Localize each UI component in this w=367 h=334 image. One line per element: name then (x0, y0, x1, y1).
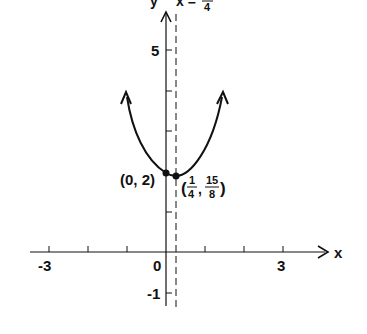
vertex-y-den: 8 (209, 188, 215, 200)
parabola-curve (127, 97, 222, 176)
symmetry-label-den: 4 (204, 1, 211, 13)
vertex-sep: , (198, 181, 202, 197)
tick-label-3: 3 (277, 257, 285, 274)
tick-label-neg3: -3 (38, 257, 51, 274)
point-vertex (173, 173, 180, 180)
tick-label-0: 0 (153, 257, 161, 274)
symmetry-label-lhs: x = (176, 0, 196, 9)
tick-label-5: 5 (151, 42, 159, 59)
vertex-x-num: 1 (189, 174, 195, 186)
point-0-2 (163, 170, 170, 177)
vertex-label-open: ( (181, 179, 187, 198)
tick-label-neg1: -1 (147, 285, 160, 302)
y-axis-label: y (150, 0, 158, 9)
vertex-label-close: ) (220, 179, 226, 198)
graph-canvas: x y -3 0 3 5 -1 x = 1 4 (0, 2) ( 1 4 , 1… (0, 0, 367, 334)
vertex-y-num: 15 (206, 174, 218, 186)
vertex-x-den: 4 (188, 188, 195, 200)
curve-left-arrow-icon (121, 92, 131, 104)
point-label-0-2: (0, 2) (120, 171, 155, 188)
x-axis-label: x (334, 244, 343, 261)
